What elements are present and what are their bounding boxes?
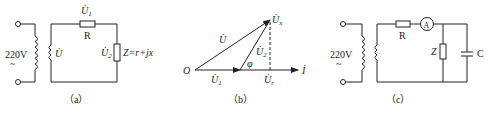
phasor-u2-label: U̇2 [256, 46, 267, 59]
primary-coil-icon [35, 36, 38, 70]
load-z-label: Z [431, 46, 437, 57]
resistor-label: R [84, 30, 91, 41]
terminal-top-icon [16, 22, 21, 27]
load-impedance-label: Z=r+jx [123, 47, 154, 58]
figure-canvas: 220V ~ U̇ U̇1 R U̇2 Z=r+jx （a） O U̇ U̇1 … [0, 0, 493, 115]
phasor-u-label: U̇ [219, 34, 227, 45]
origin-label: O [183, 65, 190, 76]
resistor-voltage-label: U̇1 [81, 5, 92, 18]
source-voltage-label: 220V [330, 49, 353, 60]
source-voltage-label: 220V [5, 49, 28, 60]
terminal-bottom-icon [341, 80, 346, 85]
phasor-u-icon [195, 20, 270, 70]
terminal-top-icon [341, 22, 346, 27]
load-z-icon [114, 44, 120, 61]
phasor-u1-label: U̇1 [211, 74, 222, 87]
load-z-icon [440, 44, 446, 59]
terminal-bottom-icon [16, 80, 21, 85]
caption-c: （c） [386, 94, 410, 105]
primary-coil-icon [362, 36, 365, 70]
caption-a: （a） [64, 94, 88, 105]
resistor-r-icon [80, 21, 95, 27]
ac-symbol: ~ [10, 58, 16, 69]
phasor-ur-label: U̇r [264, 74, 274, 87]
current-label: İ [301, 65, 306, 76]
phasor-u2-icon [240, 20, 270, 70]
secondary-voltage-label: U̇ [55, 48, 63, 59]
phasor-ux-label: U̇x [272, 14, 283, 27]
ac-symbol: ~ [336, 58, 342, 69]
capacitor-label: C [477, 48, 484, 59]
secondary-coil-icon [375, 45, 377, 60]
resistor-r-icon [396, 21, 410, 27]
secondary-coil-icon [49, 45, 51, 60]
ammeter-label: A [424, 21, 430, 30]
panel-c-circuit [341, 18, 474, 85]
resistor-label: R [399, 30, 406, 41]
caption-b: （b） [228, 94, 253, 105]
phase-angle-label: φ [247, 58, 253, 69]
load-voltage-label: U̇2 [101, 47, 112, 60]
